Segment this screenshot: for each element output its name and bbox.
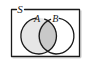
venn-region-fills xyxy=(21,18,74,54)
set-b-label: B xyxy=(52,13,58,24)
set-a-label: A xyxy=(33,13,41,24)
venn-diagram-canvas: S A B xyxy=(0,0,93,69)
universal-set-label: S xyxy=(17,3,23,15)
venn-diagram-figure: S A B xyxy=(0,0,93,69)
